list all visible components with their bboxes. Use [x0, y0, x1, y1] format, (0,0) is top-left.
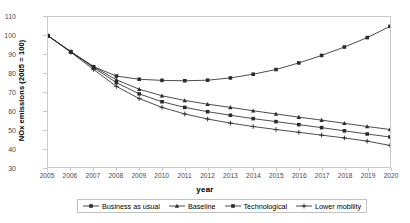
x-tick-mark — [162, 168, 163, 171]
legend-marker-icon — [83, 202, 99, 210]
data-point-marker — [388, 25, 390, 29]
data-point-marker — [206, 110, 210, 114]
y-tick-label: 50 — [0, 127, 16, 134]
legend-item-technological[interactable]: Technological — [225, 202, 288, 211]
data-point-marker — [365, 36, 369, 40]
x-tick-mark — [70, 168, 71, 171]
x-tick-mark — [185, 168, 186, 171]
y-tick-label: 60 — [0, 108, 16, 115]
data-point-marker — [251, 72, 255, 76]
legend-label: Baseline — [188, 202, 216, 211]
data-point-marker — [137, 96, 142, 101]
legend-label: Business as usual — [102, 202, 160, 211]
data-point-marker — [229, 76, 233, 80]
y-axis-title: NOx emissions (2005 = 100) — [17, 16, 26, 166]
x-tick-mark — [230, 168, 231, 171]
data-point-marker — [297, 123, 301, 127]
legend-marker-icon — [296, 202, 312, 210]
series-lower-mobility — [48, 33, 390, 147]
data-point-marker — [183, 79, 187, 83]
data-point-marker — [388, 143, 390, 148]
data-point-marker — [251, 117, 255, 121]
data-point-marker — [343, 129, 347, 133]
x-tick-mark — [368, 168, 369, 171]
data-point-marker — [231, 204, 235, 208]
legend-item-lower-mobility[interactable]: Lower mobility — [296, 202, 361, 211]
x-tick-label: 2020 — [378, 172, 404, 179]
y-tick-label: 70 — [0, 89, 16, 96]
x-tick-mark — [276, 168, 277, 171]
x-tick-mark — [391, 168, 392, 171]
data-point-marker — [182, 112, 187, 117]
data-point-marker — [365, 139, 370, 144]
line-chart: NOx emissions (2005 = 100) 3040506070809… — [0, 0, 410, 223]
x-tick-mark — [322, 168, 323, 171]
data-point-marker — [274, 68, 278, 72]
x-tick-mark — [253, 168, 254, 171]
data-point-marker — [115, 81, 119, 85]
y-tick-label: 110 — [0, 13, 16, 20]
data-point-marker — [319, 133, 324, 138]
data-point-marker — [296, 130, 301, 135]
data-point-marker — [229, 113, 233, 117]
data-point-marker — [365, 132, 369, 136]
x-axis-title: year — [0, 185, 410, 194]
series-technological — [48, 34, 390, 139]
data-point-marker — [302, 204, 307, 209]
data-point-marker — [342, 136, 347, 141]
data-point-marker — [183, 106, 187, 110]
data-point-marker — [115, 74, 119, 78]
data-point-marker — [228, 121, 233, 126]
legend-marker-icon — [169, 202, 185, 210]
data-point-marker — [160, 79, 164, 83]
legend-item-baseline[interactable]: Baseline — [169, 202, 216, 211]
data-point-marker — [320, 126, 324, 130]
data-point-marker — [274, 127, 279, 132]
data-point-marker — [297, 61, 301, 65]
legend-label: Lower mobility — [315, 202, 361, 211]
y-tick-label: 100 — [0, 32, 16, 39]
x-tick-mark — [93, 168, 94, 171]
legend-item-business-as-usual[interactable]: Business as usual — [83, 202, 160, 211]
legend-label: Technological — [244, 202, 288, 211]
legend-marker-icon — [225, 202, 241, 210]
data-point-marker — [388, 135, 390, 139]
x-tick-mark — [139, 168, 140, 171]
data-point-marker — [251, 124, 256, 129]
data-point-marker — [343, 45, 347, 49]
data-point-marker — [89, 204, 93, 208]
chart-legend: Business as usualBaselineTechnologicalLo… — [77, 199, 367, 213]
data-point-marker — [160, 100, 164, 104]
y-tick-label: 90 — [0, 51, 16, 58]
y-tick-label: 30 — [0, 165, 16, 172]
series-layer — [48, 17, 390, 167]
x-tick-mark — [116, 168, 117, 171]
data-point-marker — [206, 78, 210, 82]
data-point-marker — [137, 77, 141, 81]
data-point-marker — [205, 117, 210, 122]
data-point-marker — [274, 120, 278, 124]
data-point-marker — [320, 54, 324, 58]
data-point-marker — [160, 105, 165, 110]
series-baseline — [48, 33, 390, 131]
x-tick-mark — [47, 168, 48, 171]
y-tick-label: 40 — [0, 146, 16, 153]
plot-area — [47, 16, 391, 168]
data-point-marker — [137, 92, 141, 96]
x-tick-mark — [299, 168, 300, 171]
x-tick-mark — [208, 168, 209, 171]
y-tick-label: 80 — [0, 70, 16, 77]
x-tick-mark — [345, 168, 346, 171]
